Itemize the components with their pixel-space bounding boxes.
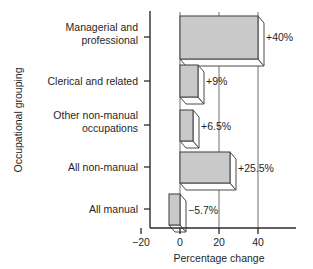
bar-face (180, 65, 198, 97)
bar-chart: +40% +9% +6.5% +25.5% −5.7% (0, 0, 313, 269)
bar-shadow-side (180, 194, 186, 232)
bar-group-clerical-and-related: +9% (180, 65, 227, 104)
bar-value-label: +6.5% (201, 120, 231, 132)
bar-face (180, 110, 193, 141)
bar-shadow (180, 183, 236, 190)
category-label: occupations (82, 122, 138, 134)
bar-shadow-side (198, 65, 204, 104)
bar-shadow-side (258, 16, 264, 66)
y-category-labels: Managerial and professional Clerical and… (48, 21, 139, 215)
x-tick-labels: −20 0 20 40 (132, 236, 264, 248)
x-tick-label: 40 (252, 236, 264, 248)
bar-value-label: +25.5% (238, 162, 274, 174)
bar-face (169, 194, 180, 225)
bar-value-label: +40% (266, 31, 293, 43)
category-label: Other non-manual (53, 109, 138, 121)
bar-value-label: −5.7% (188, 204, 218, 216)
y-axis-ticks (144, 37, 150, 209)
bar-group-managerial-and-professional: +40% (180, 16, 293, 66)
x-axis-ticks (141, 228, 258, 234)
bar-face (180, 16, 258, 59)
category-label: All manual (89, 203, 138, 215)
x-axis-title: Percentage change (173, 252, 264, 264)
chart-svg: +40% +9% +6.5% +25.5% −5.7% (0, 0, 313, 269)
bar-shadow-side (230, 152, 236, 190)
category-label: professional (81, 34, 138, 46)
x-tick-label: 0 (177, 236, 183, 248)
bar-group-other-non-manual-occupations: +6.5% (180, 110, 231, 148)
bar-shadow-side (193, 110, 199, 148)
category-label: Clerical and related (48, 75, 139, 87)
x-tick-label: −20 (132, 236, 150, 248)
category-label: Managerial and (66, 21, 139, 33)
bar-value-label: +9% (206, 75, 227, 87)
bar-group-all-non-manual: +25.5% (180, 152, 274, 190)
x-tick-label: 20 (213, 236, 225, 248)
bar-group-all-manual: −5.7% (169, 194, 218, 232)
y-axis-title: Occupational grouping (12, 67, 24, 172)
bar-face (180, 152, 230, 183)
category-label: All non-manual (68, 161, 138, 173)
